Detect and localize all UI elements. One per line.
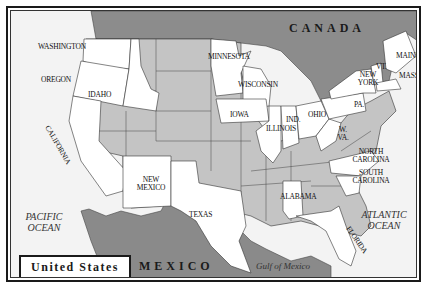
label-maine: MAINE — [396, 52, 417, 60]
label-atlantic-ocean: ATLANTIC OCEAN — [359, 209, 409, 231]
label-vermont: VT. — [376, 63, 387, 71]
label-washington: WASHINGTON — [38, 43, 86, 51]
label-pacific-ocean: PACIFIC OCEAN — [19, 211, 69, 233]
label-mexico: MEXICO — [139, 259, 214, 274]
label-pennsylvania: PA. — [354, 101, 364, 109]
label-indiana: IND. — [286, 116, 300, 124]
label-idaho: IDAHO — [88, 91, 111, 99]
label-ohio: OHIO — [308, 111, 326, 119]
map-title-box: United States — [19, 255, 131, 278]
label-massachusetts: MASS. — [399, 72, 417, 80]
label-new-york: NEW YORK — [356, 71, 380, 87]
label-oregon: OREGON — [41, 76, 71, 84]
label-south-carolina: SOUTH CAROLINA — [351, 169, 391, 185]
label-west-virginia: W. VA. — [336, 126, 350, 142]
label-wisconsin: WISCONSIN — [238, 81, 278, 89]
label-texas: TEXAS — [189, 211, 212, 219]
us-map: CANADA MEXICO PACIFIC OCEAN ATLANTIC OCE… — [10, 10, 417, 278]
label-new-mexico: NEW MEXICO — [131, 176, 171, 192]
label-minnesota: MINNESOTA — [208, 53, 250, 61]
label-canada: CANADA — [289, 21, 365, 36]
label-north-carolina: NORTH CAROLINA — [351, 148, 391, 164]
label-illinois: ILLINOIS — [266, 125, 296, 133]
label-iowa: IOWA — [230, 111, 249, 119]
label-alabama: ALABAMA — [280, 193, 317, 201]
label-gulf-of-mexico: Gulf of Mexico — [256, 261, 310, 272]
